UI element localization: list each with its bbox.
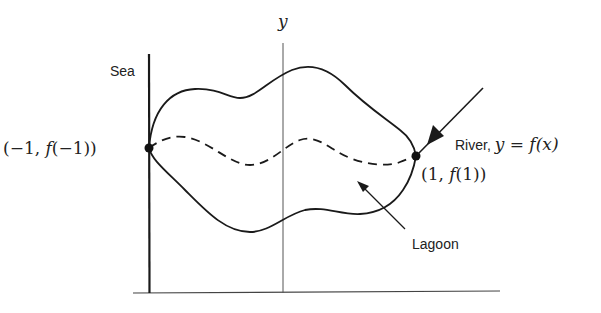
lagoon-label: Lagoon [412, 236, 459, 252]
lagoon-diagram: y Sea (−1, f(−1)) (1, f(1)) River, y = f… [0, 0, 601, 313]
x-axis-line [133, 291, 500, 293]
river-label: River, y = f(x) [455, 134, 559, 154]
right-point-label: (1, f(1)) [421, 164, 486, 184]
lagoon-arrowhead-icon [357, 181, 369, 192]
sea-label: Sea [110, 63, 135, 79]
left-point-label: (−1, f(−1)) [3, 138, 97, 158]
river-arrowhead-icon [427, 125, 444, 145]
y-axis-label: y [277, 11, 288, 31]
lagoon-arrow-line [362, 186, 405, 229]
left-endpoint-dot [145, 144, 154, 153]
sea-boundary-line [149, 54, 150, 293]
